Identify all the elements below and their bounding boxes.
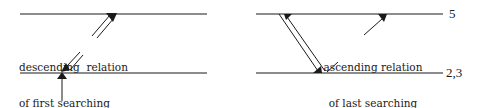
annotation-line: of last searching (323, 97, 423, 108)
annotation-line: ascending relation (323, 61, 423, 73)
level-label-top: 5 (449, 7, 456, 21)
annotation-line: of first searching (19, 97, 128, 108)
ascending-relation-annotation: ascending relation of last searching act… (323, 37, 423, 108)
ascending-pointer-arrow (364, 14, 387, 35)
ascending-relation-double-line (279, 14, 325, 73)
arrowhead-bottom-icon (313, 66, 322, 73)
descending-relation-annotation: descending relation of first searching a… (19, 37, 128, 108)
level-label-bottom: 2,3 (446, 66, 462, 80)
annotation-line: descending relation (19, 61, 128, 73)
